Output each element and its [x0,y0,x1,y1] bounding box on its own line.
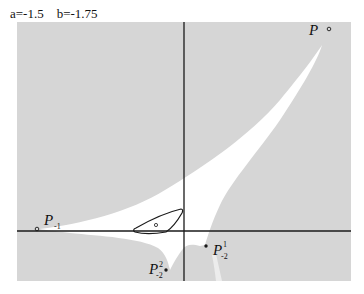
P-minus-1-label: P [43,212,53,228]
P-minus-2-2-marker-icon [164,268,167,271]
P-minus-2-1-superscript: 1 [223,240,227,249]
P-minus-2-1-marker-icon [204,244,207,247]
P-minus-2-2-superscript: 2 [159,260,163,269]
basin-diagram: a=-1.5 b=-1.75 P P -1 P 1 -2 [0,0,364,294]
diagram-canvas: P P -1 P 1 -2 P 2 -2 [0,0,364,294]
P-minus-2-2-subscript: -2 [156,271,163,280]
P-minus-1-subscript: -1 [54,222,61,231]
P-label: P [308,22,318,38]
P-minus-2-1-subscript: -2 [221,252,228,261]
